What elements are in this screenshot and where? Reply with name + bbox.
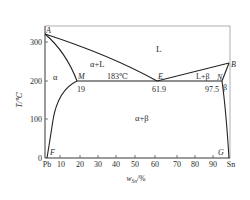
phase-lines [45, 34, 229, 158]
liquidus-ae [45, 34, 157, 81]
y-tick-100: 100 [30, 115, 42, 124]
x-tick-20: 20 [76, 160, 84, 169]
x-tick-70: 70 [173, 160, 181, 169]
x-tick-pb: Pb [43, 160, 51, 169]
region-alpha: α [53, 72, 58, 82]
n-composition: 97.5 [205, 85, 219, 94]
region-beta: β [223, 83, 227, 92]
x-tick-labels: Pb 10 20 30 40 50 60 70 80 90 Sn [43, 160, 235, 169]
solvus-mf [47, 81, 77, 158]
region-alpha-l: α+L [90, 59, 104, 69]
x-tick-50: 50 [131, 160, 139, 169]
point-m: M [77, 72, 86, 81]
x-tick-40: 40 [112, 160, 120, 169]
x-tick-30: 30 [94, 160, 102, 169]
plot-frame [45, 26, 230, 158]
y-axis-label: T/℃ [15, 91, 24, 108]
region-l-beta: L+β [196, 72, 209, 81]
phase-diagram: 0 100 200 300 T/℃ Pb 10 20 30 40 50 60 7… [0, 0, 250, 200]
y-tick-200: 200 [30, 77, 42, 86]
region-alpha-beta: α+β [135, 113, 149, 123]
y-tick-300: 300 [30, 38, 42, 47]
region-l: L [156, 44, 162, 54]
point-g: G [218, 148, 224, 157]
x-axis-label: wSn/% [127, 174, 146, 184]
x-tick-90: 90 [209, 160, 217, 169]
solvus-ng [222, 81, 229, 158]
point-b: B [231, 60, 236, 69]
e-composition: 61.9 [152, 85, 166, 94]
point-n: N [216, 73, 223, 82]
point-a: A [45, 26, 51, 35]
x-tick-sn: Sn [227, 160, 235, 169]
solidus-am [45, 34, 77, 81]
x-tick-10: 10 [57, 160, 65, 169]
x-tick-60: 60 [151, 160, 159, 169]
x-tick-80: 80 [191, 160, 199, 169]
eutectic-temp: 183℃ [107, 72, 128, 81]
solidus-bn [222, 63, 229, 81]
y-tick-0: 0 [38, 154, 42, 163]
point-e: E [157, 72, 163, 81]
point-f: F [49, 148, 55, 157]
m-composition: 19 [77, 85, 85, 94]
